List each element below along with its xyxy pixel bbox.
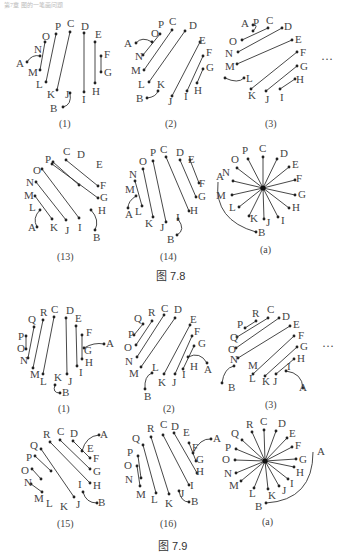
svg-text:L: L	[249, 372, 256, 384]
svg-text:O: O	[124, 341, 132, 353]
svg-text:H: H	[190, 360, 198, 372]
svg-text:P: P	[158, 18, 164, 30]
svg-text:N: N	[125, 355, 133, 367]
svg-text:L: L	[36, 78, 43, 90]
svg-text:D: D	[171, 420, 179, 432]
svg-text:H: H	[92, 85, 100, 97]
svg-text:K: K	[165, 497, 173, 509]
svg-text:N: N	[224, 467, 232, 479]
svg-text:P: P	[150, 146, 156, 158]
svg-text:O: O	[124, 459, 132, 471]
svg-text:D: D	[174, 303, 182, 315]
panel-label: (a)	[260, 244, 271, 256]
svg-text:F: F	[295, 439, 301, 451]
svg-text:K: K	[54, 371, 62, 383]
svg-text:M: M	[30, 368, 40, 380]
svg-text:M: M	[28, 66, 38, 78]
svg-text:L: L	[229, 201, 236, 213]
svg-text:G: G	[84, 344, 92, 356]
svg-text:I: I	[78, 221, 82, 233]
svg-text:R: R	[246, 418, 254, 430]
svg-text:M: M	[225, 60, 235, 72]
svg-text:K: K	[250, 212, 258, 224]
svg-text:I: I	[182, 368, 186, 380]
panel-label: (3)	[265, 399, 277, 411]
vertex-labels: OPCD EFGH IJKL MNAB OPCD EFGH IJKL MNAB …	[16, 14, 325, 512]
svg-text:H: H	[296, 73, 304, 85]
svg-text:G: G	[198, 337, 206, 349]
svg-text:J: J	[180, 487, 185, 499]
svg-text:M: M	[131, 64, 141, 76]
svg-text:B: B	[255, 500, 262, 512]
svg-text:Q: Q	[30, 439, 38, 451]
svg-text:R: R	[252, 307, 260, 319]
svg-text:F: F	[199, 177, 205, 189]
svg-text:K: K	[50, 221, 58, 233]
svg-text:E: E	[199, 34, 206, 46]
svg-text:A: A	[213, 432, 221, 444]
center-vertex	[262, 458, 267, 463]
svg-text:A: A	[299, 381, 307, 393]
svg-text:Q: Q	[230, 331, 238, 343]
svg-text:C: C	[266, 14, 273, 26]
svg-text:N: N	[34, 43, 42, 55]
svg-text:E: E	[190, 313, 197, 325]
svg-text:G: G	[104, 66, 112, 78]
panel-label: (16)	[160, 518, 177, 530]
svg-text:N: N	[125, 473, 133, 485]
svg-text:I: I	[184, 90, 188, 102]
svg-text:N: N	[24, 476, 32, 488]
svg-text:N: N	[129, 168, 137, 180]
svg-text:D: D	[81, 20, 89, 32]
svg-text:N: N	[135, 50, 143, 62]
figure-caption: 图 7.9	[158, 540, 187, 552]
svg-text:M: M	[248, 359, 258, 371]
svg-text:P: P	[128, 328, 134, 340]
svg-text:E: E	[289, 427, 296, 439]
svg-text:G: G	[300, 60, 308, 72]
svg-text:L: L	[40, 375, 47, 387]
svg-text:G: G	[299, 453, 307, 465]
panel-label: (13)	[57, 251, 74, 263]
svg-text:H: H	[98, 204, 106, 216]
svg-text:E: E	[295, 33, 302, 45]
figure-caption: 图 7.8	[156, 270, 185, 282]
svg-text:P: P	[225, 441, 231, 453]
panel-label: (1)	[58, 403, 70, 415]
svg-text:D: D	[66, 304, 74, 316]
svg-text:D: D	[77, 148, 85, 160]
svg-text:M: M	[24, 189, 34, 201]
svg-text:O: O	[222, 453, 230, 465]
svg-text:B: B	[144, 390, 151, 402]
svg-text:J: J	[168, 95, 173, 107]
svg-text:J: J	[65, 224, 70, 236]
svg-text:M: M	[129, 367, 139, 379]
svg-text:A: A	[106, 337, 114, 349]
svg-text:B: B	[167, 233, 174, 245]
svg-text:P: P	[18, 330, 24, 342]
svg-text:L: L	[152, 361, 159, 373]
panel-label: (2)	[165, 118, 177, 130]
svg-text:F: F	[93, 452, 99, 464]
diagram-canvas: OPCD EFGH IJKL MNAB OPCD EFGH IJKL MNAB …	[0, 0, 351, 560]
svg-text:G: G	[100, 191, 108, 203]
panel-label: (2)	[163, 403, 175, 415]
svg-text:O: O	[42, 30, 50, 42]
svg-text:D: D	[284, 20, 292, 32]
svg-text:H: H	[196, 465, 204, 477]
svg-text:F: F	[192, 441, 198, 453]
svg-text:D: D	[282, 310, 290, 322]
svg-text:H: H	[85, 356, 93, 368]
svg-text:O: O	[21, 464, 29, 476]
svg-text:B: B	[93, 231, 100, 243]
svg-text:C: C	[67, 17, 74, 29]
svg-text:C: C	[51, 303, 58, 315]
svg-text:F: F	[104, 48, 110, 60]
svg-text:C: C	[259, 142, 266, 154]
svg-text:B: B	[98, 496, 105, 508]
svg-text:N: N	[20, 354, 28, 366]
svg-text:B: B	[258, 226, 265, 238]
svg-text:E: E	[292, 158, 299, 170]
svg-text:Q: Q	[132, 432, 140, 444]
svg-text:C: C	[57, 425, 64, 437]
